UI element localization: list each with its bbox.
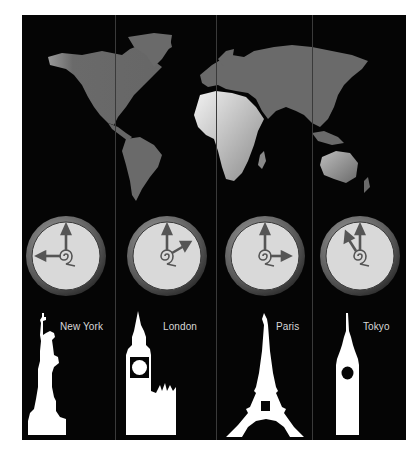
- clock-paris: [224, 215, 306, 297]
- tokyo-tower-icon: [324, 311, 374, 440]
- clock-london: [126, 215, 208, 297]
- timezone-divider: [115, 15, 116, 440]
- eiffel-tower-icon: [218, 311, 313, 440]
- world-clock-panel: New York London Paris Tokyo: [22, 15, 406, 440]
- africa: [194, 91, 264, 181]
- world-map: [22, 15, 406, 215]
- south-america: [122, 137, 162, 201]
- big-ben-icon: [124, 311, 189, 440]
- clock-new-york: [25, 215, 107, 297]
- clock-tokyo: [319, 215, 401, 297]
- australia: [320, 151, 358, 183]
- statue-of-liberty-icon: [24, 311, 74, 440]
- timezone-divider: [216, 15, 217, 440]
